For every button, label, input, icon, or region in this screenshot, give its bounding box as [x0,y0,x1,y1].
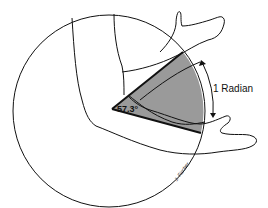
artist-signature: J. Fischer [172,161,190,183]
arc-label: 1 Radian [213,83,253,94]
radian-diagram: 57.3° 1 Radian J. Fischer [0,0,268,208]
arrowhead-bottom-icon [210,113,216,118]
radian-arc-arrow [202,62,213,116]
angle-label: 57.3° [117,104,139,114]
arrowhead-top-icon [199,60,206,66]
